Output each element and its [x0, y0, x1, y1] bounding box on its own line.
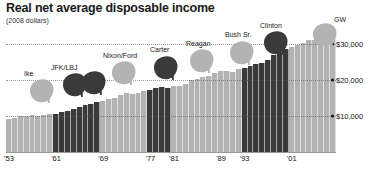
y-axis-label: $20,000: [336, 76, 363, 85]
x-axis-label: '69: [98, 154, 108, 163]
y-axis-tick-dot: [331, 115, 334, 118]
president-label: GW: [334, 16, 346, 24]
axis-baseline: [6, 152, 336, 153]
x-axis-label: '77: [145, 154, 155, 163]
chart-root: Real net average disposable income (2008…: [0, 0, 390, 175]
gridline: [6, 44, 336, 45]
president-label: Clinton: [260, 22, 282, 30]
x-axis-label: '93: [240, 154, 250, 163]
x-axis-labels: '53'61'69'77'81'89'93'01: [6, 154, 336, 168]
y-axis-tick-dot: [331, 43, 334, 46]
x-axis-label: '61: [51, 154, 61, 163]
bar: [330, 39, 336, 152]
gridline: [6, 116, 336, 117]
x-axis-label: '53: [4, 154, 14, 163]
y-axis-tick-dot: [331, 79, 334, 82]
y-axis-label: $30,000: [336, 40, 363, 49]
y-axis-label: $10,000: [336, 112, 363, 121]
x-axis-label: '81: [169, 154, 179, 163]
chart-subtitle: (2008 dollars): [6, 16, 215, 25]
bar-series: [6, 30, 336, 152]
page-title: Real net average disposable income: [6, 2, 215, 15]
x-axis-label: '89: [216, 154, 226, 163]
chart-header: Real net average disposable income (2008…: [6, 2, 215, 25]
x-axis-label: '01: [287, 154, 297, 163]
plot-area: [6, 30, 336, 152]
gridline: [6, 80, 336, 81]
